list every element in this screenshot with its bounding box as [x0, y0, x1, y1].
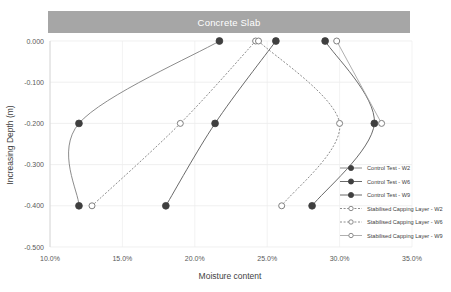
data-point-marker	[309, 202, 316, 209]
y-tick-label: -0.100	[24, 79, 44, 86]
legend-marker-swatch	[348, 179, 353, 184]
data-point-marker	[272, 38, 279, 45]
x-tick-label: 15.0%	[112, 255, 132, 262]
x-tick-label: 35.0%	[402, 255, 422, 262]
y-axis-title: Increasing Depth (m)	[5, 105, 15, 185]
legend: Control Test - W2Control Test - W6Contro…	[340, 165, 443, 239]
data-point-marker	[337, 120, 343, 126]
x-tick-label: 25.0%	[257, 255, 277, 262]
data-point-marker	[322, 38, 329, 45]
legend-item-label: Control Test - W9	[367, 192, 410, 198]
legend-item-label: Stabilised Capping Layer - W6	[367, 219, 443, 225]
legend-marker-swatch	[348, 192, 353, 197]
data-point-marker	[76, 120, 83, 127]
data-point-marker	[177, 120, 183, 126]
legend-marker-swatch	[349, 206, 353, 210]
legend-item-label: Control Test - W6	[367, 179, 410, 185]
data-point-marker	[212, 120, 219, 127]
data-point-marker	[379, 120, 385, 126]
y-tick-labels: 0.000-0.100-0.200-0.300-0.400-0.500	[24, 38, 44, 251]
data-point-marker	[256, 38, 262, 44]
legend-item-label: Stabilised Capping Layer - W9	[367, 233, 443, 239]
data-point-marker	[371, 120, 378, 127]
chart-container: Concrete Slab 10.0%15.0%20.0%25.0%30.0%3…	[0, 0, 451, 292]
legend-marker-swatch	[349, 233, 353, 237]
legend-marker-swatch	[349, 220, 353, 224]
data-point-marker	[162, 202, 169, 209]
data-point-marker	[76, 202, 83, 209]
data-point-marker	[89, 203, 95, 209]
y-tick-label: -0.200	[24, 120, 44, 127]
y-tick-label: 0.000	[26, 38, 44, 45]
grid-lines	[50, 41, 412, 247]
x-tick-label: 20.0%	[185, 255, 205, 262]
chart-plot: 10.0%15.0%20.0%25.0%30.0%35.0% 0.000-0.1…	[0, 0, 451, 292]
x-axis-title: Moisture content	[199, 271, 262, 281]
data-point-marker	[334, 38, 340, 44]
legend-item-label: Control Test - W2	[367, 165, 410, 171]
x-tick-labels: 10.0%15.0%20.0%25.0%30.0%35.0%	[40, 255, 422, 262]
y-tick-label: -0.300	[24, 161, 44, 168]
data-point-marker	[279, 203, 285, 209]
legend-marker-swatch	[348, 165, 353, 170]
x-tick-label: 10.0%	[40, 255, 60, 262]
y-tick-label: -0.400	[24, 202, 44, 209]
y-tick-label: -0.500	[24, 244, 44, 251]
x-tick-label: 30.0%	[330, 255, 350, 262]
legend-item-label: Stabilised Capping Layer - W2	[367, 206, 443, 212]
data-point-marker	[216, 38, 223, 45]
